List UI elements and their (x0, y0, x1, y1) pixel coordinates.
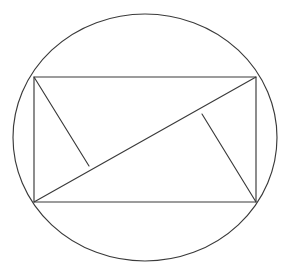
geometry-figure (0, 0, 290, 278)
